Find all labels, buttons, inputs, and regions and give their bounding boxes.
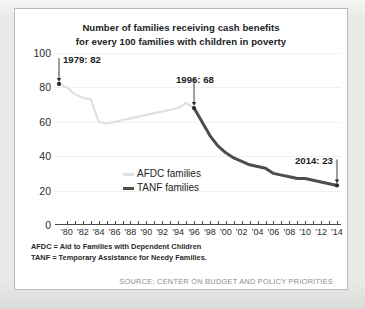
x-tick-label: '96 [188,227,200,237]
y-axis: 020406080100 [15,53,55,225]
annotation-arrowhead [57,78,61,82]
x-tick-label: '02 [236,227,248,237]
x-tick-label: '86 [109,227,121,237]
chart-title-line-2: for every 100 families with children in … [15,35,347,49]
annotation-label: 2014: 23 [295,155,333,166]
chart-card: Number of families receiving cash benefi… [14,8,348,290]
x-axis-labels: '80'82'84'86'88'90'92'94'96'98'00'02'04'… [55,227,341,241]
y-tick-label: 60 [39,116,51,128]
x-tick-label: '88 [125,227,137,237]
x-tick-label: '84 [93,227,105,237]
source-credit: SOURCE: CENTER ON BUDGET AND POLICY PRIO… [119,277,333,286]
x-tick-label: '90 [140,227,152,237]
annotation-arrowhead [192,102,196,106]
legend-item-afdc: AFDC families [123,167,253,181]
annotation-arrowhead [335,179,339,183]
y-tick-label: 100 [33,47,51,59]
annotation-marker [192,106,196,110]
chart-screenshot: Number of families receiving cash benefi… [0,0,365,309]
x-tick-label: '98 [204,227,216,237]
y-tick-label: 0 [45,219,51,231]
x-tick-label: '92 [156,227,168,237]
legend-item-tanf: TANF families [123,181,253,195]
x-tick-label: '14 [331,227,343,237]
x-tick-label: '80 [61,227,73,237]
footnote-tanf: TANF = Temporary Assistance for Needy Fa… [31,252,331,263]
chart-title: Number of families receiving cash benefi… [15,21,347,49]
annotation-marker [335,183,339,187]
plot-area: 020406080100 1979: 821996: 682014: 23 [15,53,349,225]
annotation-label: 1996: 68 [176,74,214,85]
x-tick-label: '04 [252,227,264,237]
x-tick-label: '06 [268,227,280,237]
legend-label-afdc: AFDC families [137,167,201,181]
legend-swatch-tanf [123,187,134,190]
x-tick-label: '10 [299,227,311,237]
chart-legend: AFDC families TANF families [123,167,253,195]
series-line-afdc [59,84,194,124]
y-tick-label: 20 [39,185,51,197]
x-tick-label: '08 [283,227,295,237]
chart-title-line-1: Number of families receiving cash benefi… [15,21,347,35]
legend-label-tanf: TANF families [137,181,199,195]
footnote-afdc: AFDC = Aid to Families with Dependent Ch… [31,241,331,252]
x-tick-label: '94 [172,227,184,237]
x-tick-label: '00 [220,227,232,237]
annotation-label: 1979: 82 [63,54,101,65]
legend-swatch-afdc [123,173,134,176]
x-tick-label: '82 [77,227,89,237]
y-tick-label: 80 [39,81,51,93]
x-tick-label: '12 [315,227,327,237]
annotation-marker [57,82,61,86]
y-tick-label: 40 [39,150,51,162]
footnotes: AFDC = Aid to Families with Dependent Ch… [31,241,331,263]
